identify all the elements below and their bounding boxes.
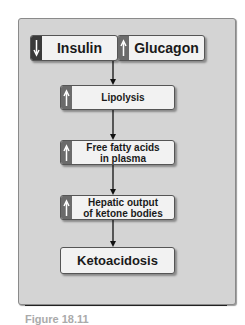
caption-rule: [25, 305, 227, 306]
up-arrow-icon: [61, 196, 72, 219]
node-glucagon: Glucagon: [117, 35, 205, 61]
flow-arrow: [108, 110, 118, 140]
up-arrow-icon: [61, 141, 72, 164]
node-label-line2: of ketone bodies: [83, 208, 162, 219]
flow-arrow: [108, 220, 118, 247]
node-label-line1: Free fatty acids: [86, 142, 159, 153]
node-label: Ketoacidosis: [61, 255, 174, 266]
up-arrow-icon: [61, 86, 72, 109]
node-insulin: Insulin: [30, 35, 118, 61]
node-label-line1: Hepatic output: [88, 197, 158, 208]
node-label: Free fatty acids in plasma: [72, 142, 174, 164]
node-lipolysis: Lipolysis: [60, 85, 175, 110]
node-label: Lipolysis: [72, 92, 174, 103]
node-label: Insulin: [42, 43, 117, 54]
node-label: Glucagon: [129, 43, 204, 54]
flow-arrow: [108, 61, 118, 85]
flow-arrow: [108, 165, 118, 195]
node-label-line2: in plasma: [100, 153, 146, 164]
node-free-fatty-acids: Free fatty acids in plasma: [60, 140, 175, 165]
up-arrow-icon: [118, 36, 129, 60]
down-arrow-icon: [31, 36, 42, 60]
figure-caption: Figure 18.11: [25, 313, 89, 325]
node-ketoacidosis: Ketoacidosis: [60, 247, 175, 274]
node-label: Hepatic output of ketone bodies: [72, 197, 174, 219]
node-hepatic-output: Hepatic output of ketone bodies: [60, 195, 175, 220]
